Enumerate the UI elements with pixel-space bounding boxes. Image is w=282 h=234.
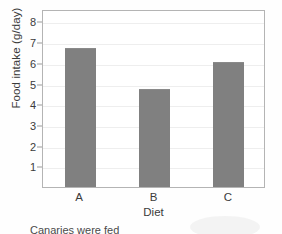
y-axis-tick-label: 1 — [20, 161, 36, 173]
y-axis-tick-label: 7 — [20, 37, 36, 49]
y-axis-tick-mark — [37, 146, 42, 147]
x-axis-tick-label: A — [59, 191, 99, 203]
y-axis-tick-label: 4 — [20, 99, 36, 111]
bar — [139, 89, 170, 187]
x-axis-tick-label: C — [208, 191, 248, 203]
y-axis-tick-mark — [37, 125, 42, 126]
y-axis-tick-mark — [37, 105, 42, 106]
y-axis-tick-mark — [37, 167, 42, 168]
x-axis-tick-label: B — [134, 191, 174, 203]
y-axis-tick-label: 6 — [20, 58, 36, 70]
plot-area — [42, 10, 265, 188]
y-axis-tick-label: 5 — [20, 79, 36, 91]
gridline — [43, 23, 264, 24]
bar — [213, 62, 244, 187]
y-axis-tick-mark — [37, 84, 42, 85]
gridline — [43, 44, 264, 45]
y-axis-tick-label: 2 — [20, 141, 36, 153]
bar-chart-figure: Food intake (g/day) 12345678 ABC Diet Ca… — [0, 0, 282, 234]
y-axis-tick-mark — [37, 63, 42, 64]
y-axis-tick-mark — [37, 43, 42, 44]
y-axis-tick-label: 3 — [20, 120, 36, 132]
y-axis-tick-mark — [37, 22, 42, 23]
bar — [65, 48, 96, 187]
figure-caption: Canaries were fed — [30, 224, 119, 234]
y-axis-tick-labels: 12345678 — [18, 0, 36, 234]
scan-artifact — [190, 216, 260, 234]
y-axis-tick-label: 8 — [20, 16, 36, 28]
